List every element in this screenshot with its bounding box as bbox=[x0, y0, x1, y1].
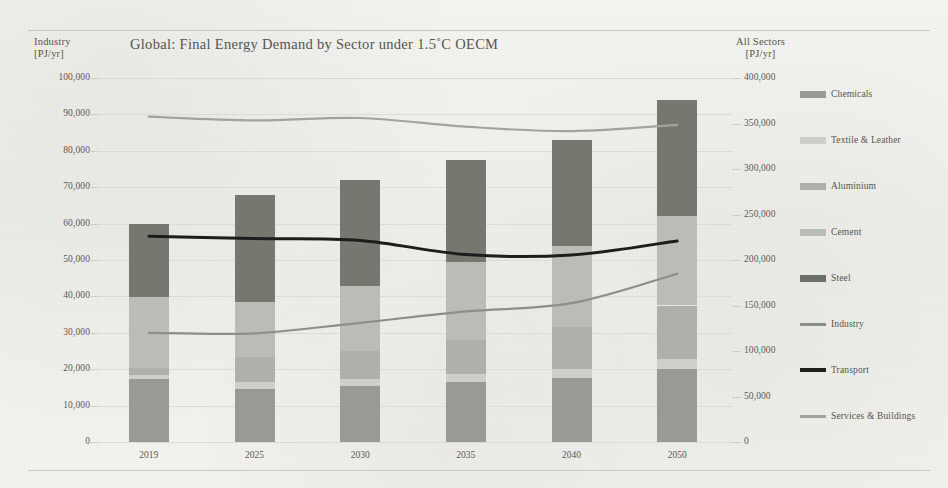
chart-figure: Industry [PJ/yr] All Sectors [PJ/yr] Glo… bbox=[0, 0, 948, 488]
right-axis-unit: [PJ/yr] bbox=[736, 48, 785, 60]
right-tick-label: 200,000 bbox=[744, 254, 776, 264]
legend-item-cement[interactable]: Cement bbox=[800, 226, 861, 238]
legend-swatch bbox=[800, 368, 826, 372]
legend-label: Cement bbox=[831, 227, 861, 237]
plot-area: 010,00020,00030,00040,00050,00060,00070,… bbox=[98, 78, 732, 442]
left-tick-label: 10,000 bbox=[20, 400, 90, 410]
left-tick-label: 20,000 bbox=[20, 363, 90, 373]
right-tick-label: 400,000 bbox=[744, 72, 776, 82]
right-tick-mark bbox=[732, 351, 741, 352]
chart-title: Global: Final Energy Demand by Sector un… bbox=[130, 36, 498, 53]
right-tick-mark bbox=[732, 306, 741, 307]
legend-swatch bbox=[800, 91, 826, 98]
left-tick-mark bbox=[89, 114, 98, 115]
right-tick-label: 100,000 bbox=[744, 345, 776, 355]
legend-swatch bbox=[800, 229, 826, 236]
right-axis-title: All Sectors [PJ/yr] bbox=[736, 36, 785, 60]
right-tick-mark bbox=[732, 124, 741, 125]
legend-label: Chemicals bbox=[831, 89, 872, 99]
right-tick-label: 250,000 bbox=[744, 209, 776, 219]
left-tick-mark bbox=[89, 151, 98, 152]
legend-label: Industry bbox=[831, 319, 864, 329]
right-tick-mark bbox=[732, 78, 741, 79]
right-tick-label: 50,000 bbox=[744, 391, 771, 401]
legend-swatch bbox=[800, 323, 826, 326]
legend-swatch bbox=[800, 275, 826, 282]
line-series-group bbox=[98, 78, 732, 442]
legend-swatch bbox=[800, 415, 826, 418]
legend-swatch bbox=[800, 137, 826, 144]
legend-item-industry[interactable]: Industry bbox=[800, 318, 864, 330]
right-tick-mark bbox=[732, 397, 741, 398]
legend-item-steel[interactable]: Steel bbox=[800, 272, 851, 284]
legend-label: Services & Buildings bbox=[831, 411, 915, 421]
legend-swatch bbox=[800, 183, 826, 190]
x-tick-label: 2035 bbox=[456, 450, 475, 460]
left-tick-mark bbox=[89, 296, 98, 297]
left-axis-title: Industry [PJ/yr] bbox=[34, 36, 71, 60]
line-transport[interactable] bbox=[149, 236, 677, 256]
right-axis-label: All Sectors bbox=[736, 36, 785, 48]
line-industry[interactable] bbox=[149, 274, 677, 334]
right-tick-label: 150,000 bbox=[744, 300, 776, 310]
left-tick-label: 40,000 bbox=[20, 290, 90, 300]
x-tick-label: 2019 bbox=[139, 450, 158, 460]
right-tick-mark bbox=[732, 442, 741, 443]
legend-label: Aluminium bbox=[831, 181, 876, 191]
x-tick-label: 2025 bbox=[245, 450, 264, 460]
left-tick-mark bbox=[89, 78, 98, 79]
left-tick-mark bbox=[89, 224, 98, 225]
left-tick-mark bbox=[89, 369, 98, 370]
left-tick-mark bbox=[89, 187, 98, 188]
right-tick-label: 350,000 bbox=[744, 118, 776, 128]
legend-item-services-buildings[interactable]: Services & Buildings bbox=[800, 410, 915, 422]
x-tick-label: 2050 bbox=[668, 450, 687, 460]
left-tick-label: 0 bbox=[20, 436, 90, 446]
right-tick-mark bbox=[732, 215, 741, 216]
x-tick-label: 2030 bbox=[351, 450, 370, 460]
right-tick-mark bbox=[732, 169, 741, 170]
left-tick-label: 30,000 bbox=[20, 327, 90, 337]
left-tick-mark bbox=[89, 260, 98, 261]
right-tick-label: 0 bbox=[744, 436, 749, 446]
left-tick-label: 60,000 bbox=[20, 218, 90, 228]
left-tick-label: 70,000 bbox=[20, 181, 90, 191]
left-tick-label: 90,000 bbox=[20, 108, 90, 118]
legend-label: Steel bbox=[831, 273, 851, 283]
x-tick-label: 2040 bbox=[562, 450, 581, 460]
left-tick-label: 100,000 bbox=[20, 72, 90, 82]
left-axis-unit: [PJ/yr] bbox=[34, 48, 71, 60]
legend-label: Transport bbox=[831, 365, 869, 375]
left-tick-label: 50,000 bbox=[20, 254, 90, 264]
left-tick-mark bbox=[89, 333, 98, 334]
legend-item-aluminium[interactable]: Aluminium bbox=[800, 180, 876, 192]
left-tick-mark bbox=[89, 442, 98, 443]
gridline bbox=[98, 442, 732, 443]
left-tick-label: 80,000 bbox=[20, 145, 90, 155]
right-tick-mark bbox=[732, 260, 741, 261]
legend-item-transport[interactable]: Transport bbox=[800, 364, 869, 376]
right-tick-label: 300,000 bbox=[744, 163, 776, 173]
line-services-buildings[interactable] bbox=[149, 117, 677, 132]
legend-item-textile-leather[interactable]: Textile & Leather bbox=[800, 134, 901, 146]
left-tick-mark bbox=[89, 406, 98, 407]
legend-label: Textile & Leather bbox=[831, 135, 901, 145]
left-axis-label: Industry bbox=[34, 36, 71, 48]
legend-item-chemicals[interactable]: Chemicals bbox=[800, 88, 872, 100]
